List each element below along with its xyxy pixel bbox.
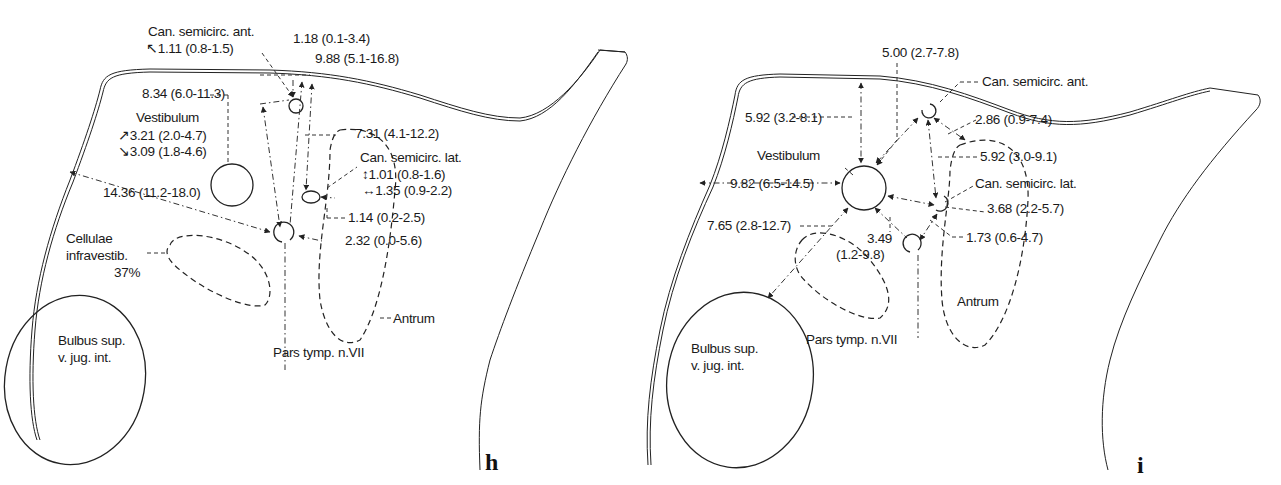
diagram-canvas: Can. semicirc. ant. ↖1.11 (0.8-1.5) 1.18… xyxy=(0,0,1281,485)
label-can-semicirc-ant: Can. semicirc. ant. xyxy=(982,74,1088,89)
label-bulbus-1: Bulbus sup. xyxy=(58,333,125,348)
label-bulbus-2: v. jug. int. xyxy=(691,358,744,373)
label-dist-top-1: 1.18 (0.1-3.4) xyxy=(293,31,370,46)
label-cellulae-pct: 37% xyxy=(114,265,140,280)
label-vestibulum: Vestibulum xyxy=(136,110,199,125)
label-lat-size-1: ↕1.01 (0.8-1.6) xyxy=(362,167,445,182)
label-pars-tymp: Pars tymp. n.VII xyxy=(806,332,897,347)
label-dist-wall: 9.82 (6.5-14.5) xyxy=(730,176,814,191)
label-dist-bulbus: 7.65 (2.8-12.7) xyxy=(707,218,791,233)
can-lat-shape xyxy=(302,191,320,203)
label-can-ant-size: ↖1.11 (0.8-1.5) xyxy=(146,41,234,56)
label-vest-size-2: ↘3.09 (1.8-4.6) xyxy=(118,144,207,159)
label-dist-fn-1: 3.49 xyxy=(867,231,892,246)
label-pars-tymp: Pars tymp. n.VII xyxy=(273,345,364,360)
bulbus-shape xyxy=(0,284,159,476)
label-dist-fn-antrum: 2.32 (0.0-5.6) xyxy=(345,233,422,248)
label-antrum: Antrum xyxy=(957,294,999,309)
label-dist-lat-top: 7.31 (4.1-12.2) xyxy=(355,126,439,141)
label-dist-lat-fn: 1.73 (0.6-4.7) xyxy=(966,230,1043,245)
label-dist-fn-2: (1.2-9.8) xyxy=(836,247,884,262)
label-dist-ant-lat: 5.92 (3.0-9.1) xyxy=(980,149,1057,164)
can-ant-shape xyxy=(289,99,303,113)
can-lat-shape xyxy=(936,196,948,211)
bone-outline xyxy=(647,74,1260,470)
vestibulum-shape xyxy=(842,166,886,210)
label-dist-ant-antrum: 2.86 (0.9-7.4) xyxy=(975,112,1052,127)
label-dist-ant-vest: 8.34 (6.0-11.3) xyxy=(142,86,225,101)
panel-letter-i: i xyxy=(1137,452,1144,478)
label-cellulae-2: infravestib. xyxy=(66,248,128,263)
facial-nerve-shape xyxy=(274,222,294,242)
can-ant-shape xyxy=(922,104,936,118)
label-can-semicirc-lat: Can. semicirc. lat. xyxy=(360,150,462,165)
label-bulbus-2: v. jug. int. xyxy=(58,350,111,365)
label-vestibulum: Vestibulum xyxy=(757,148,820,163)
label-cellulae-1: Cellulae xyxy=(66,231,112,246)
label-dist-top-2: 9.88 (5.1-16.8) xyxy=(315,51,399,66)
panel-h: Can. semicirc. ant. ↖1.11 (0.8-1.5) 1.18… xyxy=(0,24,627,476)
panel-letter-h: h xyxy=(485,449,498,475)
label-lat-size-2: ↔1.35 (0.9-2.2) xyxy=(362,183,452,198)
label-can-semicirc-ant: Can. semicirc. ant. xyxy=(148,24,254,39)
label-can-semicirc-lat: Can. semicirc. lat. xyxy=(975,176,1077,191)
label-antrum: Antrum xyxy=(393,311,435,326)
vestibulum-shape xyxy=(211,164,253,206)
cellulae-shape xyxy=(167,235,270,306)
label-dist-vest-top: 5.00 (2.7-7.8) xyxy=(882,45,959,60)
panel-i: 5.00 (2.7-7.8) Can. semicirc. ant. 2.86 … xyxy=(647,45,1260,478)
bulbus-shape xyxy=(655,283,824,478)
label-dist-lat-vest: 3.68 (2.2-5.7) xyxy=(987,201,1064,216)
label-bulbus-1: Bulbus sup. xyxy=(691,341,758,356)
label-dist-wall: 14.36 (11.2-18.0) xyxy=(103,185,200,200)
label-dist-wall-top: 5.92 (3.2-8.1) xyxy=(745,110,822,125)
label-dist-lat-antrum: 1.14 (0.2-2.5) xyxy=(348,210,425,225)
label-vest-size-1: ↗3.21 (2.0-4.7) xyxy=(118,128,207,143)
